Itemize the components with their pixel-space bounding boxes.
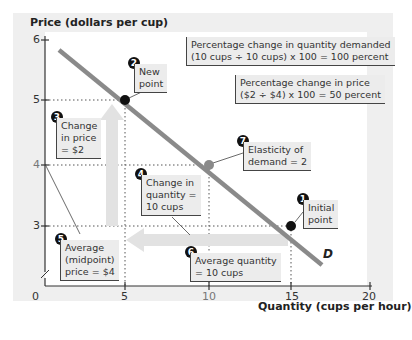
callout-3-box: Change in price = $2 [56, 118, 101, 159]
x-tick-15: 15 [285, 290, 299, 303]
callout-7-line1: Elasticity of [248, 144, 307, 156]
callout-4-line3: 10 cups [146, 201, 197, 213]
x-tick-20: 20 [362, 290, 376, 303]
initial-point-marker [286, 221, 296, 231]
callout-4-line1: Change in [146, 177, 197, 189]
formula-price-box: Percentage change in price ($2 ÷ $4) x 1… [235, 75, 385, 104]
formula-quantity-box: Percentage change in quantity demanded (… [186, 37, 395, 66]
callout-3-line2: in price [61, 132, 97, 144]
x-axis-title: Quantity (cups per hour) [258, 300, 412, 313]
callout-1-line2: point [308, 214, 334, 226]
callout-5-line3: price = $4 [65, 266, 115, 278]
callout-4-box: Change in quantity = 10 cups [141, 175, 201, 216]
callout-5-line2: (midpoint) [65, 254, 115, 266]
callout-2-line2: point [139, 78, 163, 90]
y-axis-title: Price (dollars per cup) [30, 16, 168, 29]
x-tick-10: 10 [202, 290, 216, 303]
callout-2-line1: New [139, 66, 163, 78]
callout-3-line1: Change [61, 120, 97, 132]
callout-1-line1: Initial [308, 202, 334, 214]
callout-7-box: Elasticity of demand = 2 [243, 142, 311, 171]
callout-2-box: New point [134, 64, 167, 93]
callout-6-box: Average quantity = 10 cups [190, 253, 281, 282]
formula-price-line2: ($2 ÷ $4) x 100 = 50 percent [240, 89, 381, 101]
x-tick-0: 0 [32, 290, 39, 303]
demand-curve-label: D [323, 247, 333, 261]
midpoint-marker [204, 160, 214, 170]
callout-5-box: Average (midpoint) price = $4 [60, 240, 119, 281]
formula-quantity-line1: Percentage change in quantity demanded [191, 39, 391, 51]
y-tick-5: 5 [33, 93, 40, 106]
callout-1-box: Initial point [303, 200, 338, 229]
y-tick-3: 3 [33, 219, 40, 232]
x-tick-5: 5 [121, 290, 128, 303]
y-tick-6: 6 [33, 33, 40, 46]
new-point-marker [120, 95, 130, 105]
callout-5-line1: Average [65, 242, 115, 254]
callout-7-line2: demand = 2 [248, 156, 307, 168]
callout-6-line1: Average quantity [195, 255, 277, 267]
callout-6-line2: = 10 cups [195, 267, 277, 279]
formula-price-line1: Percentage change in price [240, 77, 381, 89]
y-tick-4: 4 [33, 158, 40, 171]
callout-4-line2: quantity = [146, 189, 197, 201]
callout-3-line3: = $2 [61, 144, 97, 156]
formula-quantity-line2: (10 cups ÷ 10 cups) x 100 = 100 percent [191, 51, 391, 63]
